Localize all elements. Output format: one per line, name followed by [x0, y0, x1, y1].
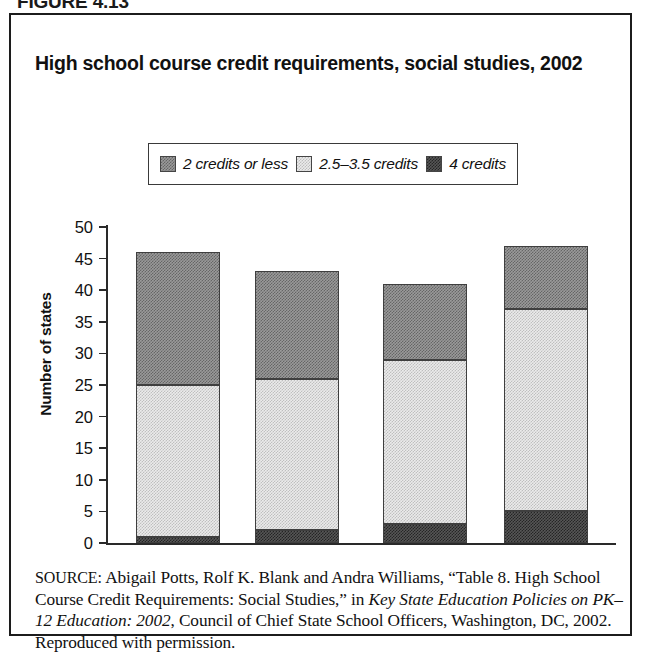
- y-axis-title: Number of states: [37, 274, 55, 434]
- y-tick-label: 5: [59, 503, 93, 520]
- x-axis-line: [106, 543, 616, 545]
- y-tick-label: 0: [59, 535, 93, 552]
- bar-segment: [504, 309, 588, 511]
- y-tick-label: 10: [59, 472, 93, 489]
- y-tick-label: 15: [59, 440, 93, 457]
- figure-label: FIGURE 4.13: [17, 0, 129, 13]
- bar-segment: [255, 530, 339, 543]
- bar-segment: [383, 524, 467, 543]
- y-axis-line: [106, 225, 108, 544]
- bar-segment: [504, 511, 588, 543]
- y-tick-label: 45: [59, 251, 93, 268]
- y-tick-label: 20: [59, 409, 93, 426]
- bar-segment: [255, 379, 339, 531]
- bar-segment: [383, 284, 467, 360]
- bar-segment: [136, 537, 220, 543]
- y-tick-label: 35: [59, 314, 93, 331]
- bar-segment: [136, 385, 220, 537]
- bar-segment: [383, 360, 467, 524]
- y-tick-label: 40: [59, 282, 93, 299]
- figure-box: High school course credit requirements, …: [9, 13, 632, 636]
- y-tick-label: 50: [59, 219, 93, 236]
- bar-segment: [255, 271, 339, 378]
- bar-segment: [504, 246, 588, 309]
- plot-area: Number of states 50454035302520151050: [11, 15, 634, 638]
- source-note: SOURCE: Abigail Potts, Rolf K. Blank and…: [35, 567, 625, 653]
- y-tick-label: 25: [59, 377, 93, 394]
- source-label: SOURCE:: [35, 569, 102, 586]
- bar-segment: [136, 252, 220, 385]
- y-tick-label: 30: [59, 345, 93, 362]
